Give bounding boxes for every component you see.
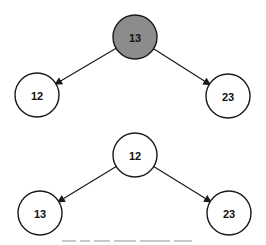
node-label: 23 — [223, 208, 235, 220]
node-label: 12 — [31, 90, 43, 102]
node-label: 13 — [34, 208, 46, 220]
node-left-child: 13 — [18, 191, 62, 235]
node-label: 12 — [129, 150, 141, 162]
node-label: 23 — [222, 91, 234, 103]
tree-after: 12 13 23 — [18, 133, 251, 235]
tree-diagram: 13 12 23 12 13 23 — [0, 0, 266, 245]
edge-root-right — [154, 49, 211, 85]
tree-before: 13 12 23 — [15, 15, 250, 118]
edge-root-left — [55, 48, 116, 84]
node-right-child: 23 — [207, 191, 251, 235]
node-root: 12 — [113, 133, 157, 177]
edge-root-right — [154, 167, 211, 202]
node-left-child: 12 — [15, 73, 59, 117]
edge-root-left — [58, 167, 116, 203]
node-root-highlighted: 13 — [113, 15, 157, 59]
node-right-child: 23 — [206, 74, 250, 118]
figure-caption-truncated — [62, 240, 208, 245]
node-label: 13 — [129, 32, 141, 44]
